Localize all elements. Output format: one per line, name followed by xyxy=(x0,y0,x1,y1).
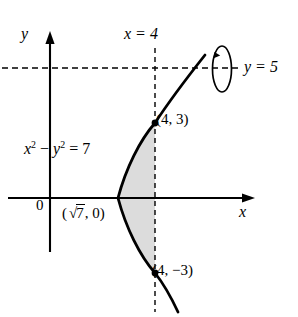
curve-equation-label: x2 − y2 = 7 xyxy=(24,140,90,157)
x-axis-label: x xyxy=(239,204,246,220)
y-axis-arrowhead xyxy=(45,31,54,44)
origin-label: 0 xyxy=(36,198,44,213)
point-label-bottom: (4, −3) xyxy=(152,263,193,278)
sqrt-icon: √7 xyxy=(67,206,85,221)
point-label-top: (4, 3) xyxy=(156,112,189,127)
y-axis-label: y xyxy=(21,26,28,42)
vertex-tail: , 0) xyxy=(85,205,105,221)
vertical-line-label: x = 4 xyxy=(124,26,158,42)
vertex-point-label: (√7, 0) xyxy=(62,206,105,221)
x-axis-arrowhead xyxy=(242,193,255,202)
axis-of-revolution-label: y = 5 xyxy=(244,59,278,75)
revolution-arrowhead-icon xyxy=(214,52,221,58)
sqrt-radicand: 7 xyxy=(76,204,85,221)
figure-canvas: y x 0 x = 4 y = 5 x2 − y2 = 7 (4, 3) (4,… xyxy=(0,0,298,317)
diagram-svg xyxy=(0,0,298,317)
